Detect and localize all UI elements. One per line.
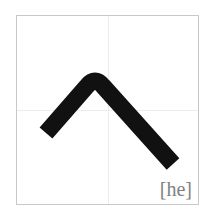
kana-card: [he] [16, 15, 199, 205]
romanization-label: [he] [160, 179, 192, 199]
